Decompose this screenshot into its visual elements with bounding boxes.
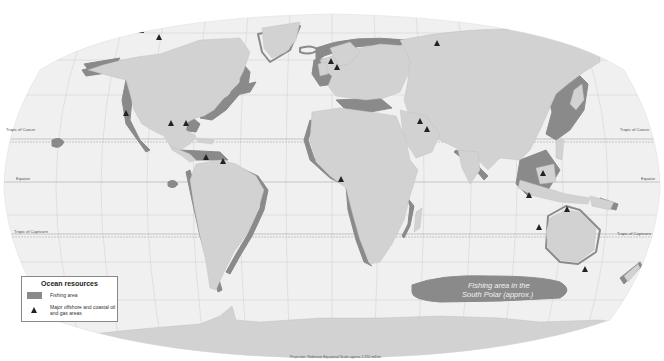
legend-oil-gas-label: Major offshore and coastal oil and gas a…	[50, 304, 116, 316]
tropic-of-cancer-label-right: Tropic of Cancer	[620, 127, 649, 132]
south-polar-annotation-line2: South Polar (approx.)	[462, 290, 533, 299]
south-polar-annotation: Fishing area in the South Polar (approx.…	[462, 281, 533, 299]
south-polar-annotation-line1: Fishing area in the	[462, 281, 533, 290]
tropic-of-cancer-label-left: Tropic of Cancer	[6, 127, 35, 132]
projection-footer: Projection: Robinson Equatorial Scale ap…	[290, 355, 381, 359]
oil-gas-triangle-icon	[138, 27, 144, 33]
legend-title: Ocean resources	[22, 280, 117, 287]
oil-gas-triangle-icon	[31, 307, 37, 313]
land-uk	[318, 62, 328, 76]
fishing-area-swatch	[27, 292, 42, 299]
legend: Ocean resources Fishing area Major offsh…	[21, 276, 118, 322]
tropic-of-capricorn-label-left: Tropic of Capricorn	[14, 229, 48, 234]
fishing-area-galapagos	[168, 180, 178, 187]
equator-label-left: Equator	[16, 176, 30, 181]
tropic-of-capricorn-label-right: Tropic of Capricorn	[617, 231, 651, 236]
equator-label-right: Equator	[641, 176, 655, 181]
legend-fishing-label: Fishing area	[50, 292, 78, 298]
